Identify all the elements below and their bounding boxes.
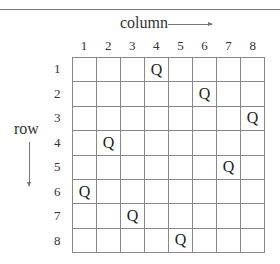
board-cell: [193, 131, 217, 155]
board-cell: [169, 180, 193, 204]
board-cell: [169, 82, 193, 106]
board-cell: [217, 180, 241, 204]
queen-cell: Q: [241, 107, 265, 131]
board-cell: [97, 82, 121, 106]
board-cell: [145, 82, 169, 106]
row-label: 6: [54, 180, 61, 205]
queen-cell: Q: [145, 58, 169, 82]
row-axis-title: row: [14, 120, 39, 138]
board-cell: [241, 58, 265, 82]
row-arrow-icon: [29, 142, 30, 186]
board-cell: [73, 58, 97, 82]
board-cell: [193, 107, 217, 131]
queen-cell: Q: [169, 229, 193, 253]
board-cell: [217, 131, 241, 155]
column-label: 2: [96, 38, 120, 54]
column-label: 3: [120, 38, 144, 54]
column-label: 6: [192, 38, 216, 54]
column-labels: 12345678: [72, 38, 265, 54]
board-cell: [145, 204, 169, 228]
row-label: 2: [54, 82, 61, 107]
board-cell: [217, 107, 241, 131]
board-cell: [241, 131, 265, 155]
queen-cell: Q: [217, 156, 241, 180]
column-label: 8: [241, 38, 265, 54]
board-cell: [145, 131, 169, 155]
board-cell: [97, 229, 121, 253]
board-cell: [97, 58, 121, 82]
board-cell: [121, 82, 145, 106]
board-cell: [193, 229, 217, 253]
column-label: 1: [72, 38, 96, 54]
board-cell: [121, 131, 145, 155]
board-cell: [97, 204, 121, 228]
board-cell: [145, 229, 169, 253]
queen-cell: Q: [121, 204, 145, 228]
row-label: 3: [54, 106, 61, 131]
board-cell: [241, 156, 265, 180]
board-cell: [73, 156, 97, 180]
board-cell: [145, 156, 169, 180]
board-cell: [241, 229, 265, 253]
chess-board: QQQQQQQQ: [72, 57, 265, 253]
board-cell: [169, 58, 193, 82]
column-arrow-icon: [168, 24, 212, 25]
board-cell: [193, 58, 217, 82]
row-label: 7: [54, 204, 61, 229]
board-cell: [217, 58, 241, 82]
board-cell: [241, 180, 265, 204]
row-labels: 12345678: [54, 57, 61, 253]
board-cell: [121, 107, 145, 131]
board-cell: [121, 229, 145, 253]
column-label: 5: [168, 38, 192, 54]
board-cell: [121, 58, 145, 82]
board-cell: [145, 180, 169, 204]
board-cell: [97, 180, 121, 204]
column-label: 7: [217, 38, 241, 54]
board-cell: [97, 107, 121, 131]
board-cell: [121, 180, 145, 204]
board-cell: [193, 156, 217, 180]
board-cell: [73, 204, 97, 228]
board-cell: [217, 82, 241, 106]
board-cell: [73, 82, 97, 106]
board-cell: [97, 156, 121, 180]
column-axis-title: column: [120, 14, 168, 32]
board-cell: [241, 204, 265, 228]
board-cell: [241, 82, 265, 106]
column-label: 4: [144, 38, 168, 54]
board-cell: [73, 131, 97, 155]
queen-cell: Q: [73, 180, 97, 204]
board-cell: [169, 156, 193, 180]
queen-cell: Q: [193, 82, 217, 106]
row-label: 4: [54, 131, 61, 156]
board-cell: [169, 131, 193, 155]
top-rule: [0, 9, 280, 10]
row-label: 1: [54, 57, 61, 82]
board-cell: [169, 204, 193, 228]
board-cell: [217, 229, 241, 253]
row-label: 8: [54, 229, 61, 254]
board-cell: [193, 204, 217, 228]
board-cell: [145, 107, 169, 131]
row-label: 5: [54, 155, 61, 180]
board-cell: [73, 107, 97, 131]
board-cell: [73, 229, 97, 253]
board-cell: [121, 156, 145, 180]
board-cell: [217, 204, 241, 228]
board-cell: [193, 180, 217, 204]
queen-cell: Q: [97, 131, 121, 155]
board-cell: [169, 107, 193, 131]
